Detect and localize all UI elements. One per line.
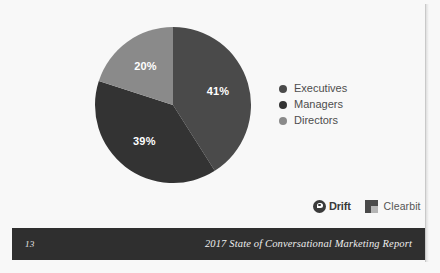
clearbit-logo-text: Clearbit xyxy=(384,200,421,212)
legend-bullet-icon xyxy=(279,85,287,93)
clearbit-logo-icon xyxy=(365,200,378,213)
footer-report-title: 2017 State of Conversational Marketing R… xyxy=(205,228,412,260)
pie-chart-svg: 41%39%20% xyxy=(95,27,251,183)
page-edge-shadow xyxy=(426,4,429,262)
legend-item-directors: Directors xyxy=(279,114,399,127)
pie-slice-label: 20% xyxy=(134,60,157,72)
clearbit-logo: Clearbit xyxy=(365,200,421,213)
slide-canvas: 41%39%20% Executives Managers Directors … xyxy=(0,0,440,273)
logo-row: Drift Clearbit xyxy=(313,196,421,216)
legend-bullet-icon xyxy=(279,117,287,125)
pie-slice-label: 39% xyxy=(133,135,156,147)
slide-footer: 13 2017 State of Conversational Marketin… xyxy=(12,228,425,260)
legend-label: Executives xyxy=(294,82,347,95)
pie-chart: 41%39%20% xyxy=(95,27,251,183)
pie-slice-label: 41% xyxy=(207,85,230,97)
drift-logo: Drift xyxy=(313,200,351,213)
drift-logo-text: Drift xyxy=(329,200,351,212)
pie-slice-group xyxy=(95,27,251,183)
footer-page-number: 13 xyxy=(25,228,35,260)
legend-item-executives: Executives xyxy=(279,82,399,95)
chart-legend: Executives Managers Directors xyxy=(279,82,399,130)
legend-item-managers: Managers xyxy=(279,98,399,111)
legend-bullet-icon xyxy=(279,101,287,109)
legend-label: Directors xyxy=(294,114,338,127)
drift-logo-icon xyxy=(313,200,326,213)
legend-label: Managers xyxy=(294,98,343,111)
